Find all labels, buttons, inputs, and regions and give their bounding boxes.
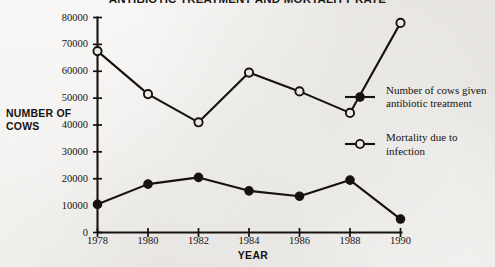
legend-entry: Mortality due to infection [386, 131, 494, 157]
legend-label: Mortality due to infection [386, 131, 494, 157]
open-circle-marker-icon [343, 136, 377, 148]
line-chart: ANTIBIOTIC TREATMENT AND MORTALITY RATE … [0, 0, 495, 267]
legend-entry: Number of cows given antibiotic treatmen… [386, 84, 494, 110]
legend-label: Number of cows given antibiotic treatmen… [386, 84, 494, 110]
filled-circle-marker-icon [343, 89, 377, 101]
data-series [93, 19, 404, 223]
axes [93, 17, 403, 238]
chart-legend: Number of cows given antibiotic treatmen… [386, 84, 494, 179]
x-axis-title: YEAR [95, 249, 411, 261]
